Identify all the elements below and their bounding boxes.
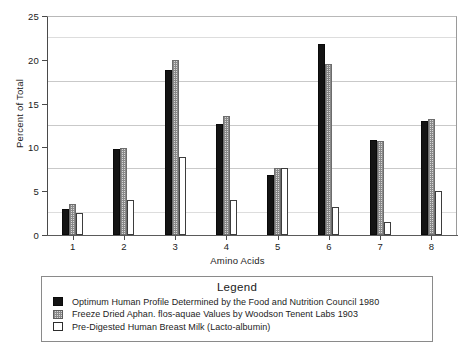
legend-swatch-icon [53, 322, 63, 331]
bar-chart-figure: Percent of Total 0510152025 12345678 Ami… [0, 0, 475, 272]
bar-group [201, 16, 252, 235]
bar [384, 222, 391, 235]
bar [421, 121, 428, 235]
y-axis-tick-labels: 0510152025 [0, 16, 47, 236]
bar [435, 191, 442, 235]
bar [370, 140, 377, 235]
bar [165, 70, 172, 235]
bar [318, 44, 325, 235]
y-axis-tick-label: 25 [28, 12, 39, 21]
y-axis-tick-label: 15 [28, 99, 39, 108]
bar [76, 213, 83, 235]
bar [216, 124, 223, 235]
bar-group [303, 16, 354, 235]
y-axis-tick-label: 10 [28, 143, 39, 152]
x-axis-tick-label: 5 [266, 242, 290, 252]
y-axis-tick-label: 5 [34, 187, 39, 196]
bar-group [98, 16, 149, 235]
legend-swatch-icon [53, 297, 63, 306]
bar [274, 168, 281, 235]
bar-group [406, 16, 457, 235]
x-axis-tick-mark [73, 236, 74, 240]
bar [325, 64, 332, 235]
bar [377, 141, 384, 235]
x-axis-tick-mark [380, 236, 381, 240]
bar-group [355, 16, 406, 235]
x-axis-tick-labels: 12345678 [47, 236, 457, 256]
legend-row: Optimum Human Profile Determined by the … [53, 296, 432, 308]
x-axis-tick-mark [278, 236, 279, 240]
bar-group [252, 16, 303, 235]
bar [428, 119, 435, 235]
bar [267, 175, 274, 235]
bar [332, 207, 339, 235]
bar [69, 204, 76, 235]
legend-entries: Optimum Human Profile Determined by the … [42, 296, 432, 333]
x-axis-tick-label: 4 [214, 242, 238, 252]
legend-title: Legend [42, 281, 432, 293]
y-axis-tick-label: 0 [34, 231, 39, 240]
x-axis-tick-mark [329, 236, 330, 240]
x-axis-tick-label: 8 [419, 242, 443, 252]
x-axis-tick-label: 6 [317, 242, 341, 252]
bar-group [47, 16, 98, 235]
legend-label: Pre-Digested Human Breast Milk (Lacto-al… [72, 322, 270, 332]
x-axis-tick-label: 1 [61, 242, 85, 252]
x-axis-tick-mark [226, 236, 227, 240]
legend-swatch-icon [53, 310, 63, 319]
y-axis-tick-label: 20 [28, 55, 39, 64]
bars-layer [47, 16, 457, 235]
x-axis-tick-label: 3 [163, 242, 187, 252]
bar [281, 168, 288, 235]
bar [113, 149, 120, 235]
x-axis-tick-label: 2 [112, 242, 136, 252]
bar-group [150, 16, 201, 235]
legend-label: Optimum Human Profile Determined by the … [72, 297, 379, 307]
bar [120, 148, 127, 235]
legend-row: Pre-Digested Human Breast Milk (Lacto-al… [53, 321, 432, 333]
legend-label: Freeze Dried Aphan. flos-aquae Values by… [72, 309, 358, 319]
legend-row: Freeze Dried Aphan. flos-aquae Values by… [53, 309, 432, 321]
bar [172, 60, 179, 235]
bar [127, 200, 134, 235]
x-axis-tick-mark [431, 236, 432, 240]
x-axis-tick-mark [124, 236, 125, 240]
bar [179, 157, 186, 235]
bar [62, 209, 69, 235]
bar [223, 116, 230, 235]
x-axis-tick-label: 7 [368, 242, 392, 252]
x-axis-tick-mark [175, 236, 176, 240]
bar [230, 200, 237, 235]
legend-box: Legend Optimum Human Profile Determined … [41, 276, 433, 342]
x-axis-title: Amino Acids [0, 255, 475, 266]
